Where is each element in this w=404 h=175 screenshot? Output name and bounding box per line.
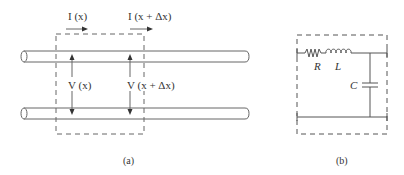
top-conductor xyxy=(21,51,249,62)
inductor-symbol xyxy=(326,49,351,53)
transmission-line-diagram: I (x) I (x + Δx) V (x) V (x + Δx) (a) R … xyxy=(0,0,404,175)
caption-a: (a) xyxy=(123,155,134,167)
panel-b xyxy=(297,35,387,134)
caption-b: (b) xyxy=(336,155,348,167)
voltage-out-label: V (x + Δx) xyxy=(127,79,175,92)
capacitor-label: C xyxy=(350,79,358,91)
resistor-label: R xyxy=(313,60,321,72)
bottom-conductor xyxy=(21,108,249,119)
current-in-label: I (x) xyxy=(68,10,88,23)
current-out-label: I (x + Δx) xyxy=(128,10,172,23)
inductor-label: L xyxy=(334,60,341,72)
current-arrow-out xyxy=(130,27,153,32)
resistor-symbol xyxy=(297,49,326,57)
current-arrow-in xyxy=(66,27,88,32)
voltage-in-label: V (x) xyxy=(68,79,92,92)
